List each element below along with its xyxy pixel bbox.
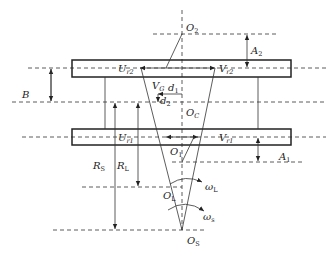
upper-bar <box>72 60 291 77</box>
label-os: OS <box>187 235 200 248</box>
label-omega-s: ωs <box>203 211 215 224</box>
kinematic-diagram: O2 A2 Ur2 Vr2 B VG d1 d2 OC Ur1 Vr1 O1 A… <box>0 0 332 254</box>
label-rs: RS <box>92 160 105 173</box>
o2-line <box>166 34 182 68</box>
labels: O2 A2 Ur2 Vr2 B VG d1 d2 OC Ur1 Vr1 O1 A… <box>21 22 290 248</box>
label-d1: d1 <box>168 82 179 95</box>
label-ur2: Ur2 <box>118 63 134 76</box>
right-converging-line <box>182 68 215 230</box>
o1-line <box>182 137 194 162</box>
label-o2: O2 <box>186 22 198 35</box>
label-vr2: Vr2 <box>219 63 233 76</box>
label-o1: O1 <box>170 146 182 159</box>
label-omega-l: ωL <box>205 181 218 194</box>
label-vr1: Vr1 <box>219 132 233 145</box>
label-b: B <box>21 89 29 100</box>
omega-l-arc <box>170 178 202 184</box>
label-ur1: Ur1 <box>118 132 134 145</box>
label-ol: OL <box>163 190 176 203</box>
label-a2: A2 <box>250 45 262 58</box>
label-vg: VG <box>152 80 164 93</box>
label-d2: d2 <box>160 95 171 108</box>
label-rl: RL <box>116 160 130 173</box>
label-oc: OC <box>186 107 199 120</box>
